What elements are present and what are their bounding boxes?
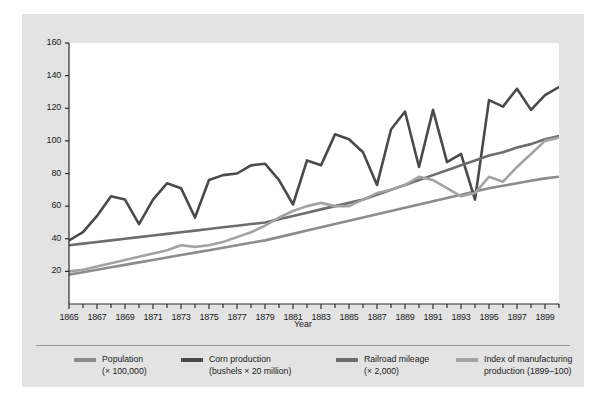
legend-label-secondary: production (1899–100) [484,366,572,378]
legend-label-primary: Population [102,354,147,366]
legend-entry[interactable]: Index of manufacturingproduction (1899–1… [456,354,572,377]
legend-label: Population(× 100,000) [102,354,147,377]
legend-color-swatch [456,358,478,362]
legend-label-secondary: (bushels × 20 million) [209,366,291,378]
legend-label: Corn production(bushels × 20 million) [209,354,291,377]
legend-label-primary: Corn production [209,354,291,366]
legend-divider [36,345,570,346]
x-axis-title: Year [22,319,584,329]
legend-color-swatch [74,358,96,362]
legend-entry[interactable]: Corn production(bushels × 20 million) [181,354,291,377]
axis-lines [22,14,584,324]
legend-label: Railroad mileage(× 2,000) [364,354,429,377]
chart-legend: Population(× 100,000)Corn production(bus… [36,354,570,384]
legend-label-secondary: (× 100,000) [102,366,147,378]
legend-label-secondary: (× 2,000) [364,366,429,378]
legend-color-swatch [336,358,358,362]
legend-entry[interactable]: Railroad mileage(× 2,000) [336,354,429,377]
legend-label-primary: Railroad mileage [364,354,429,366]
legend-label: Index of manufacturingproduction (1899–1… [484,354,572,377]
legend-color-swatch [181,358,203,362]
legend-label-primary: Index of manufacturing [484,354,572,366]
legend-entry[interactable]: Population(× 100,000) [74,354,147,377]
figure-panel: 20406080100120140160 1865186718691871187… [22,14,584,387]
